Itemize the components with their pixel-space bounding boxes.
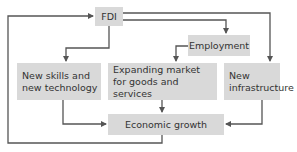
node-economic-growth-label: Economic growth — [125, 119, 207, 131]
node-new-skills: New skills and new technology — [17, 63, 101, 100]
node-economic-growth: Economic growth — [108, 114, 224, 135]
node-fdi-label: FDI — [101, 11, 117, 23]
edge-fdi-to-skills — [66, 26, 109, 61]
node-new-infrastructure-label: New infrastructure — [229, 70, 294, 94]
flow-diagram: FDI Employment New skills and new techno… — [0, 0, 297, 152]
node-expanding-market: Expanding market for goods and services — [108, 63, 217, 100]
node-employment-label: Employment — [189, 40, 249, 52]
node-new-skills-label: New skills and new technology — [22, 70, 97, 94]
node-fdi: FDI — [95, 7, 123, 26]
edge-fdi-to-employment — [123, 20, 226, 33]
node-new-infrastructure: New infrastructure — [224, 63, 280, 100]
edge-employment-to-market — [176, 46, 188, 61]
node-employment: Employment — [188, 35, 250, 56]
edge-infrastructure-to-growth — [226, 100, 262, 124]
edge-skills-to-growth — [63, 100, 106, 124]
node-expanding-market-label: Expanding market for goods and services — [113, 64, 217, 100]
